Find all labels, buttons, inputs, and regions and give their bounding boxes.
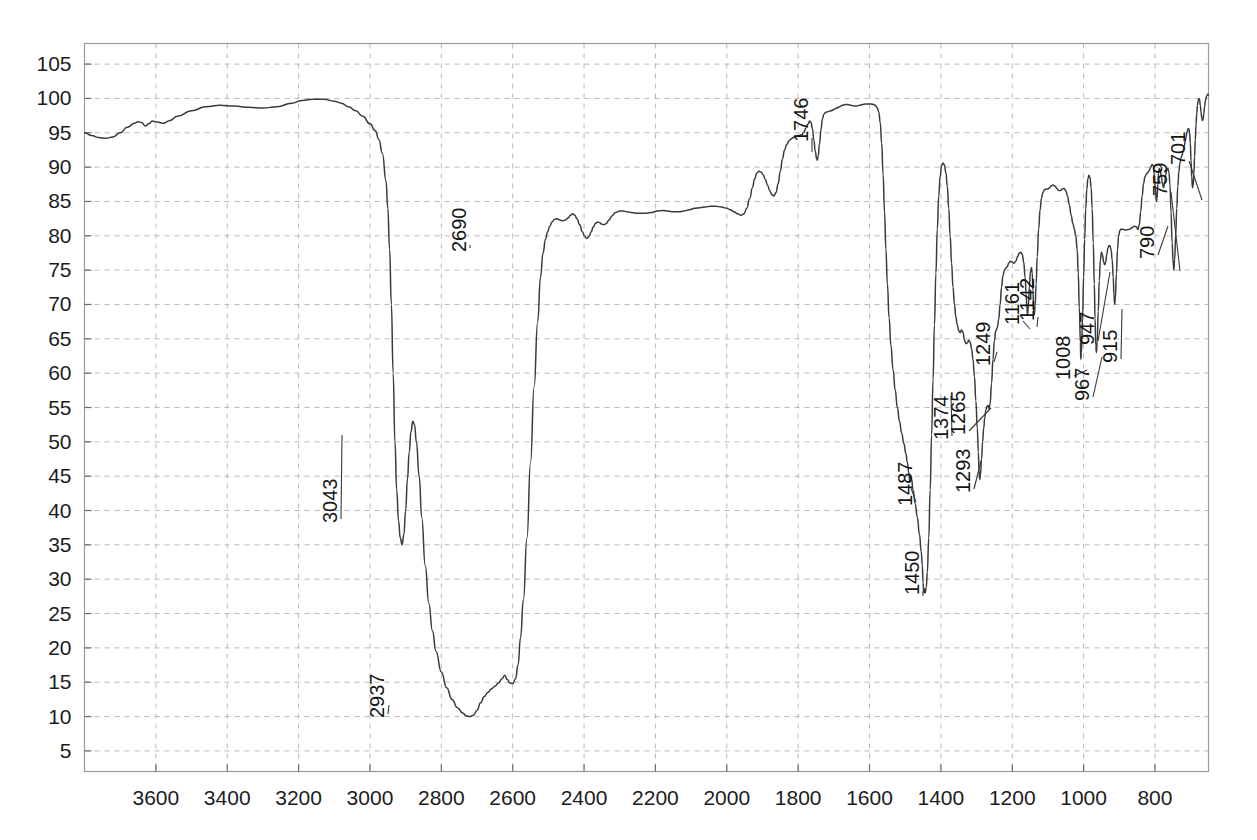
x-tick-label: 1000 [1060,786,1107,809]
peak-label: 3043 [319,479,341,524]
peak-label: 1265 [947,391,969,436]
x-tick-label: 2400 [561,786,608,809]
x-tick-label: 2600 [489,786,536,809]
y-tick-label: 75 [48,258,71,281]
ir-spectrum-chart: 5101520253035404550556065707580859095100… [0,0,1257,840]
y-tick-label: 85 [48,189,71,212]
peak-label: 790 [1136,226,1158,259]
y-tick-label: 10 [48,705,71,728]
peak-label: 967 [1071,368,1093,401]
y-tick-label: 90 [48,155,71,178]
chart-background [0,0,1257,840]
peak-label: 759 [1149,163,1171,196]
y-tick-label: 40 [48,499,71,522]
peak-label: 1746 [790,98,812,143]
x-tick-label: 3000 [347,786,394,809]
peak-label: 1487 [894,462,916,507]
y-tick-label: 45 [48,464,71,487]
x-tick-label: 3600 [133,786,180,809]
y-tick-label: 105 [36,52,71,75]
peak-label: 947 [1076,312,1098,345]
y-tick-label: 55 [48,396,71,419]
x-tick-label: 3400 [204,786,251,809]
x-tick-label: 3200 [275,786,322,809]
y-tick-label: 5 [60,739,72,762]
y-tick-label: 80 [48,224,71,247]
x-tick-label: 2000 [703,786,750,809]
peak-label: 2937 [366,674,388,719]
x-tick-label: 1200 [989,786,1036,809]
spectrum-canvas: 5101520253035404550556065707580859095100… [0,0,1257,840]
x-tick-label: 1600 [846,786,893,809]
y-tick-label: 30 [48,567,71,590]
y-tick-label: 70 [48,292,71,315]
peak-label: 701 [1167,132,1189,165]
y-tick-label: 65 [48,327,71,350]
peak-label: 2690 [448,208,470,253]
peak-label: 1293 [952,449,974,494]
y-tick-label: 35 [48,533,71,556]
y-tick-label: 20 [48,636,71,659]
x-tick-label: 800 [1137,786,1172,809]
y-tick-label: 100 [36,86,71,109]
y-tick-label: 95 [48,121,71,144]
x-tick-label: 2800 [418,786,465,809]
peak-label: 1249 [972,322,994,367]
peak-label: 1450 [901,551,923,596]
peak-label: 915 [1099,330,1121,363]
y-tick-label: 25 [48,602,71,625]
x-tick-label: 2200 [632,786,679,809]
x-tick-label: 1400 [918,786,965,809]
peak-label: 1142 [1016,278,1038,321]
x-tick-label: 1800 [775,786,822,809]
y-tick-label: 50 [48,430,71,453]
y-tick-label: 15 [48,670,71,693]
y-tick-label: 60 [48,361,71,384]
